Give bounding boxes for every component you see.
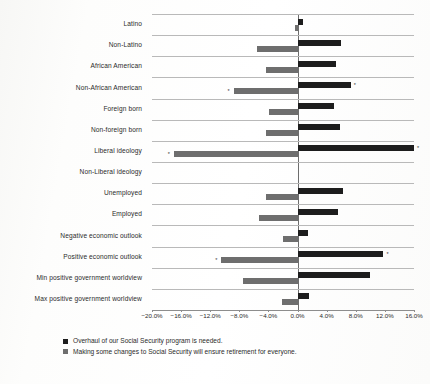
bar-overhaul [298, 61, 337, 67]
x-axis-tick-label: 8.0% [349, 313, 363, 319]
x-axis-tick-label: 16.0% [405, 313, 423, 319]
row-separator-line [152, 35, 414, 36]
category-label: Max positive government worldview [0, 296, 142, 303]
bar-overhaul [298, 188, 343, 194]
bar-overhaul [298, 145, 414, 151]
x-axis-tick-label: 12.0% [376, 313, 394, 319]
row-separator-line [152, 56, 414, 57]
significance-marker: * [215, 258, 217, 264]
row-separator-line [152, 204, 414, 205]
row-separator-line [152, 225, 414, 226]
row-separator-line [152, 14, 414, 15]
bar-some-changes [295, 25, 298, 31]
bar-some-changes [283, 236, 298, 242]
bar-overhaul [298, 230, 309, 236]
x-axis-tick-label: −12.0% [200, 313, 221, 319]
significance-marker: * [354, 83, 356, 89]
row-separator-line [152, 77, 414, 78]
bar-overhaul [298, 124, 341, 130]
category-label: Positive economic outlook [0, 254, 142, 261]
category-label: Non-Latino [0, 42, 142, 49]
x-axis-tick-label: 0.0% [290, 313, 304, 319]
bar-some-changes [221, 257, 297, 263]
row-separator-line [152, 183, 414, 184]
significance-marker: * [417, 146, 419, 152]
x-axis-tick-label: −8.0% [230, 313, 248, 319]
x-axis-line: −20.0%−16.0%−12.0%−8.0%−4.0%0.0%4.0%8.0%… [152, 310, 414, 311]
legend-item-some-changes: Making some changes to Social Security w… [63, 349, 423, 356]
row-separator-line [152, 99, 414, 100]
bar-overhaul [298, 209, 338, 215]
row-separator-line [152, 289, 414, 290]
x-axis-tick-label: 4.0% [320, 313, 334, 319]
category-label: Min positive government worldview [0, 275, 142, 282]
category-label: Unemployed [0, 190, 142, 197]
category-label: Non-Liberal ideology [0, 169, 142, 176]
significance-marker: * [168, 152, 170, 158]
bar-some-changes [257, 46, 298, 52]
significance-marker: * [386, 252, 388, 258]
category-label: Non-foreign born [0, 127, 142, 134]
row-separator-line [152, 268, 414, 269]
category-label: Non-African American [0, 85, 142, 92]
bar-overhaul [298, 293, 310, 299]
legend-swatch-dark-icon [63, 339, 68, 344]
category-label: Employed [0, 211, 142, 218]
bar-overhaul [298, 40, 342, 46]
category-label: Negative economic outlook [0, 233, 142, 240]
significance-marker: * [228, 89, 230, 95]
chart-legend: Overhaul of our Social Security program … [63, 338, 423, 359]
bars-container: ****** [152, 14, 414, 310]
row-separator-line [152, 141, 414, 142]
category-label: Latino [0, 21, 142, 28]
chart-plot-region: LatinoNon-LatinoAfrican AmericanNon-Afri… [0, 0, 430, 330]
legend-label-some-changes: Making some changes to Social Security w… [73, 349, 297, 356]
bar-some-changes [269, 109, 297, 115]
bar-some-changes [266, 130, 298, 136]
category-label: Foreign born [0, 106, 142, 113]
bar-some-changes [243, 278, 298, 284]
legend-swatch-gray-icon [63, 349, 68, 354]
bar-overhaul [298, 103, 334, 109]
row-separator-line [152, 120, 414, 121]
x-axis-tick-label: −4.0% [260, 313, 278, 319]
bar-some-changes [282, 299, 298, 305]
bar-overhaul [298, 251, 384, 257]
category-label: African American [0, 63, 142, 70]
bar-overhaul [298, 82, 351, 88]
chart-page: LatinoNon-LatinoAfrican AmericanNon-Afri… [0, 0, 430, 384]
bar-some-changes [234, 88, 298, 94]
bar-overhaul [298, 19, 303, 25]
legend-item-overhaul: Overhaul of our Social Security program … [63, 338, 423, 345]
x-axis-tick-label: −20.0% [141, 313, 162, 319]
bar-some-changes [266, 67, 297, 73]
row-separator-line [152, 162, 414, 163]
row-separator-line [152, 247, 414, 248]
bar-some-changes [174, 151, 298, 157]
bar-some-changes [259, 215, 298, 221]
bar-some-changes [266, 194, 297, 200]
x-axis-tick-label: −16.0% [171, 313, 192, 319]
category-label: Liberal ideology [0, 148, 142, 155]
bar-overhaul [298, 272, 371, 278]
legend-label-overhaul: Overhaul of our Social Security program … [73, 338, 223, 345]
